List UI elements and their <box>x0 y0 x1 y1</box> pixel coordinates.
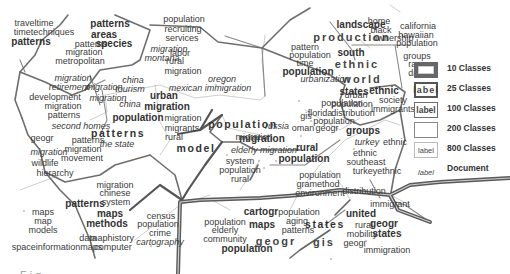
topic-label: russia <box>265 122 289 131</box>
topic-label: distribution <box>342 187 386 196</box>
topic-label: immigrant <box>370 200 410 209</box>
document-dot <box>298 100 300 102</box>
topic-label: immigration <box>364 246 411 255</box>
legend-label: Document <box>447 163 489 173</box>
legend-label: 100 Classes <box>447 103 496 113</box>
legend-swatch-200 <box>414 122 438 138</box>
legend-row-200-classes: 200 Classes <box>412 120 510 140</box>
document-dot <box>215 84 217 86</box>
figure-caption-cutoff: Fig. . . . . . . . . . . . . . . . . . .… <box>20 266 500 274</box>
topic-label: world <box>342 74 381 85</box>
document-dot <box>105 142 107 144</box>
topic-label: population <box>163 15 205 24</box>
topic-label: migration <box>144 102 190 112</box>
topic-label: gis <box>313 237 335 248</box>
topic-label: migration <box>164 114 201 123</box>
topic-label: turkey <box>355 138 380 147</box>
topic-label: mexican immigration <box>169 84 252 93</box>
document-dot <box>258 160 260 162</box>
legend-row-100-classes: label 100 Classes <box>412 100 510 120</box>
topic-label: maps <box>249 220 275 230</box>
legend-label: 10 Classes <box>447 63 491 73</box>
topic-label: services <box>165 34 198 43</box>
legend-label: 25 Classes <box>447 83 491 93</box>
topic-label: rural <box>165 133 183 142</box>
topic-label: cartography <box>136 238 184 247</box>
topic-label: tourism <box>115 85 145 94</box>
document-dot <box>226 154 228 156</box>
document-dot <box>310 120 312 122</box>
topic-label: geogr <box>256 236 297 247</box>
topic-label: geogr <box>30 134 53 143</box>
topic-label: migration <box>235 133 272 142</box>
topic-label: hierarchy <box>36 169 73 178</box>
document-dot <box>353 148 355 150</box>
document-dot <box>275 160 277 162</box>
topic-label: model <box>177 143 216 154</box>
legend-swatch-10 <box>414 62 438 78</box>
legend-swatch-25: label <box>414 82 438 98</box>
topic-label: metropolitan <box>55 57 105 66</box>
legend-swatch-document: label <box>414 164 438 180</box>
topic-label: population <box>396 39 438 48</box>
topic-label: population <box>321 99 363 108</box>
topic-label: ethnic <box>383 138 407 147</box>
topic-label: movement <box>61 154 103 163</box>
topic-label: states <box>373 229 402 239</box>
topic-label: south <box>337 48 364 58</box>
document-dot <box>150 245 152 247</box>
legend-label: 800 Classes <box>447 143 496 153</box>
topic-label: immigrants <box>371 105 415 114</box>
topic-label: computer <box>94 243 132 252</box>
topic-label: states <box>305 219 345 230</box>
topic-label: patterns <box>90 19 129 29</box>
topic-label: migration <box>164 67 201 76</box>
topic-label: second homes <box>52 122 111 131</box>
topic-label: groups <box>346 126 380 136</box>
document-dot <box>23 210 25 212</box>
document-dot <box>365 240 367 242</box>
document-dot <box>263 167 265 169</box>
topic-label: retirement <box>49 83 90 92</box>
topic-label: spaceinformationmaps <box>12 243 103 252</box>
topic-label: rural <box>166 57 184 66</box>
topic-label: rural <box>231 175 249 184</box>
topic-label: wildlife <box>31 159 58 168</box>
topic-label: patterns <box>48 111 81 120</box>
topic-label: models <box>28 226 57 235</box>
legend-row-10-classes: 10 Classes <box>412 60 510 80</box>
document-dot <box>44 232 46 234</box>
legend-label: 200 Classes <box>447 123 496 133</box>
topic-label: population <box>112 113 163 123</box>
topic-label: states <box>340 87 369 97</box>
topic-label: rural <box>296 143 318 153</box>
topic-label: system <box>102 198 131 207</box>
legend-row-25-classes: label 25 Classes <box>412 80 510 100</box>
topic-label: patterns <box>11 37 50 47</box>
topic-label: population <box>278 154 329 164</box>
topic-label: china <box>119 100 141 109</box>
topic-label: the state <box>100 140 135 149</box>
document-dot <box>330 258 332 260</box>
legend-row-800-classes: label 800 Classes <box>412 140 510 160</box>
topic-label: elderly migration <box>231 146 297 155</box>
document-dot <box>300 135 302 137</box>
document-dot <box>155 93 157 95</box>
legend-swatch-100: label <box>414 102 438 118</box>
topic-label: methods <box>86 219 128 229</box>
legend-row-document: label Document <box>412 160 510 180</box>
topic-label: population <box>282 67 333 77</box>
topic-label: ethnic <box>335 59 379 70</box>
topic-label: environment <box>295 189 345 198</box>
legend-swatch-800: label <box>414 142 438 158</box>
topic-label: cartogr <box>244 207 278 217</box>
topic-label: geogr <box>315 124 338 133</box>
topic-label: oman <box>292 124 315 133</box>
topic-label: turkeyethnic <box>353 167 402 176</box>
